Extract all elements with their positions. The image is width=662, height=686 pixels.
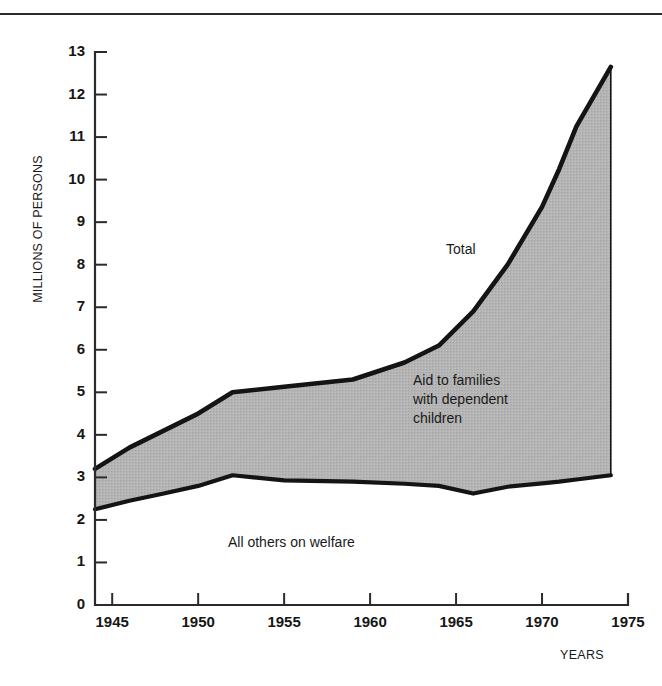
x-axis-title: YEARS: [560, 648, 604, 662]
y-tick-label: 12: [51, 85, 85, 102]
y-tick-label: 0: [51, 595, 85, 612]
x-tick-label: 1965: [428, 613, 484, 630]
y-tick-label: 4: [51, 425, 85, 442]
y-tick-label: 3: [51, 467, 85, 484]
y-tick-label: 8: [51, 255, 85, 272]
y-tick-label: 11: [51, 127, 85, 144]
y-tick-label: 7: [51, 297, 85, 314]
y-axis-title: MILLIONS OF PERSONS: [31, 129, 45, 329]
x-tick-label: 1970: [514, 613, 570, 630]
x-tick-label: 1975: [600, 613, 656, 630]
y-axis-ticks: [95, 52, 107, 605]
x-axis-ticks: [112, 593, 628, 605]
welfare-recipients-figure: MILLIONS OF PERSONS YEARS 01234567891011…: [0, 0, 662, 686]
y-tick-label: 13: [51, 42, 85, 59]
y-tick-label: 2: [51, 510, 85, 527]
x-tick-label: 1950: [170, 613, 226, 630]
chart-plot-area: [0, 0, 662, 686]
y-tick-label: 10: [51, 170, 85, 187]
y-tick-label: 9: [51, 212, 85, 229]
annotation-total: Total: [446, 240, 476, 259]
y-tick-label: 5: [51, 382, 85, 399]
y-tick-label: 1: [51, 552, 85, 569]
annotation-all-others: All others on welfare: [228, 533, 355, 552]
annotation-aid-to-families: Aid to families with dependent children: [413, 371, 508, 428]
afdc-area-band: [95, 67, 611, 509]
x-tick-label: 1945: [84, 613, 140, 630]
y-tick-label: 6: [51, 340, 85, 357]
x-tick-label: 1960: [342, 613, 398, 630]
x-tick-label: 1955: [256, 613, 312, 630]
